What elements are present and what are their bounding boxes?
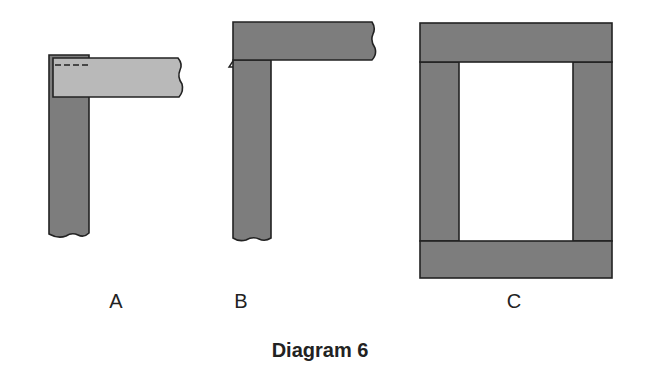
- figure-c-label: C: [507, 290, 521, 313]
- figure-a-label: A: [109, 290, 122, 313]
- figure-a: [49, 55, 183, 237]
- figure-b-stile: [233, 60, 271, 241]
- diagram-canvas: [0, 0, 649, 390]
- figure-c-right-stile: [573, 62, 612, 241]
- figure-c-left-stile: [420, 62, 459, 241]
- figure-b-rail: [233, 22, 376, 60]
- figure-c: [420, 23, 612, 278]
- diagram-caption: Diagram 6: [272, 339, 369, 362]
- figure-b-label: B: [234, 290, 247, 313]
- figure-a-rail: [53, 58, 183, 97]
- figure-b: [229, 22, 376, 241]
- figure-c-top-rail: [420, 23, 612, 62]
- figure-c-bottom-rail: [420, 241, 612, 278]
